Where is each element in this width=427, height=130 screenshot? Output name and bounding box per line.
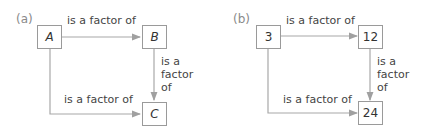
edge-b-c-label-2: factor: [161, 68, 193, 81]
edge-b-c-label-3: of: [161, 81, 172, 94]
edge-12-24-label-2: factor: [377, 68, 409, 81]
edge-3-12-label: is a factor of: [286, 14, 355, 27]
edge-3-24-label: is a factor of: [283, 93, 352, 106]
panel-b-label: (b): [233, 12, 250, 26]
node-12: 12: [358, 25, 383, 49]
panel-a-label: (a): [16, 12, 33, 26]
edge-a-b-label: is a factor of: [67, 14, 136, 27]
edge-b-c-label-1: is a: [161, 55, 180, 68]
edge-12-24-label-3: of: [377, 81, 388, 94]
node-3: 3: [256, 25, 281, 49]
node-b: B: [142, 25, 167, 49]
node-a: A: [37, 25, 62, 49]
edge-a-c-label: is a factor of: [64, 93, 133, 106]
node-24: 24: [358, 101, 383, 125]
node-c: C: [142, 102, 167, 126]
edge-12-24-label-1: is a: [377, 55, 396, 68]
